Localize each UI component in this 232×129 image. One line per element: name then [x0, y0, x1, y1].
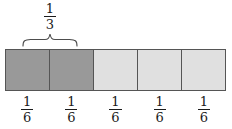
fraction-denominator: 6 [65, 111, 77, 124]
fraction-numerator: 1 [65, 95, 77, 108]
partitioned-bar [5, 49, 226, 91]
cell-label-1: 1 6 [5, 93, 49, 127]
cell-label-4: 1 6 [138, 93, 182, 127]
brace-label: 1 3 [22, 2, 78, 33]
fraction-numerator: 1 [154, 95, 166, 108]
fraction-one-sixth: 1 6 [198, 95, 210, 124]
fraction-denominator: 3 [44, 18, 56, 31]
fraction-denominator: 6 [21, 111, 33, 124]
bar-cell-5 [182, 50, 225, 90]
bar-cell-1 [6, 50, 50, 90]
cell-labels-row: 1 6 1 6 1 6 1 6 [5, 93, 226, 127]
cell-label-3: 1 6 [93, 93, 137, 127]
fraction-one-sixth: 1 6 [21, 95, 33, 124]
fraction-one-sixth: 1 6 [65, 95, 77, 124]
fraction-denominator: 6 [109, 111, 121, 124]
fraction-one-third: 1 3 [44, 2, 56, 31]
fraction-numerator: 1 [109, 95, 121, 108]
brace-group: 1 3 [22, 2, 78, 48]
cell-label-2: 1 6 [49, 93, 93, 127]
fraction-numerator: 1 [198, 95, 210, 108]
curly-brace-icon [22, 33, 78, 47]
cell-label-5: 1 6 [182, 93, 226, 127]
fraction-one-sixth: 1 6 [154, 95, 166, 124]
fraction-numerator: 1 [44, 2, 56, 15]
fraction-numerator: 1 [21, 95, 33, 108]
fraction-bar-figure: 1 3 1 6 1 6 [0, 0, 232, 129]
bar-cell-3 [94, 50, 138, 90]
bar-cell-2 [50, 50, 94, 90]
fraction-denominator: 6 [198, 111, 210, 124]
bar-cell-4 [138, 50, 182, 90]
fraction-one-sixth: 1 6 [109, 95, 121, 124]
fraction-denominator: 6 [154, 111, 166, 124]
